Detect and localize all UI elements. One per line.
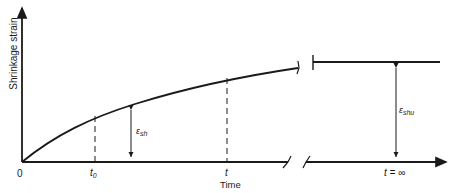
eps-shu-subscript: shu bbox=[403, 109, 414, 116]
t-label: t bbox=[225, 167, 228, 178]
t0-subscript: 0 bbox=[93, 172, 97, 179]
y-axis-label: Shrinkage strain bbox=[8, 9, 19, 99]
t-infinity-label: t = ∞ bbox=[384, 167, 405, 178]
origin-label: 0 bbox=[17, 168, 23, 179]
shrinkage-curve bbox=[22, 68, 298, 162]
x-axis-label: Time bbox=[220, 179, 241, 190]
eps-sh-subscript: sh bbox=[140, 130, 147, 137]
t0-label: t0 bbox=[90, 167, 97, 179]
eps-sh-label: εsh bbox=[136, 126, 147, 137]
shrinkage-diagram bbox=[0, 0, 453, 193]
eps-shu-label: εshu bbox=[399, 105, 414, 116]
